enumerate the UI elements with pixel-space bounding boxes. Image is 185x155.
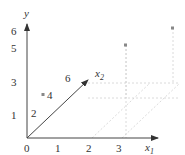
- y-tick: 6: [11, 25, 17, 37]
- x2-tick: 6: [65, 72, 71, 84]
- x2-tick: 4: [47, 89, 53, 101]
- x1-tick: 2: [86, 142, 92, 154]
- y-tick: 1: [11, 109, 17, 121]
- x1-axis-label: x1: [144, 141, 154, 155]
- x1-tick: 0: [24, 142, 30, 154]
- x1-tick: 3: [116, 142, 122, 154]
- data-point: [171, 27, 174, 30]
- y-axis-label: y: [23, 7, 29, 19]
- x2-axis-label: x2: [94, 67, 104, 82]
- y-tick: 5: [11, 42, 17, 54]
- y-tick: 3: [11, 76, 17, 88]
- data-point: [124, 44, 127, 47]
- 3d-axes-diagram: y 6 5 3 1 0 1 2 3 x1 2 4 6 x2: [0, 0, 185, 155]
- dashed-guides: [88, 28, 180, 138]
- x2-tick: 2: [31, 107, 37, 119]
- x1-tick: 1: [55, 142, 61, 154]
- data-point: [42, 93, 45, 96]
